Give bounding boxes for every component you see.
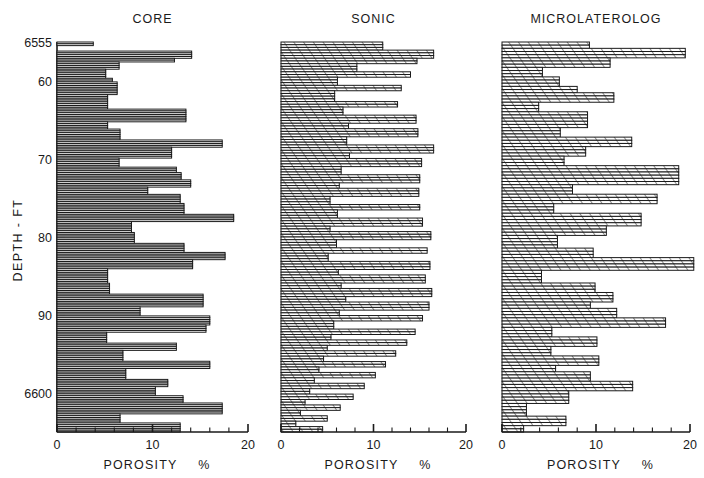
chart-svg: 6555607080906600 DEPTH - FT CORE01020POR… bbox=[0, 0, 704, 478]
porosity-tick-label: 10 bbox=[146, 438, 160, 452]
porosity-bar bbox=[57, 44, 93, 46]
panel-title: CORE bbox=[132, 12, 172, 26]
porosity-tick-label: 0 bbox=[54, 438, 61, 452]
bar-group bbox=[502, 42, 694, 432]
y-axis-label: DEPTH - FT bbox=[11, 199, 25, 282]
panel-core: CORE01020POROSITY% bbox=[54, 12, 255, 472]
depth-tick-label: 6600 bbox=[24, 387, 52, 401]
porosity-tick-label: 20 bbox=[241, 438, 255, 452]
bar-group bbox=[57, 42, 234, 432]
x-axis-unit: % bbox=[198, 458, 210, 472]
porosity-tick-label: 20 bbox=[459, 438, 473, 452]
panel-microlaterolog: MICROLATEROLOG01020POROSITY% bbox=[499, 12, 697, 472]
porosity-depth-figure: 6555607080906600 DEPTH - FT CORE01020POR… bbox=[0, 0, 704, 478]
depth-tick-label: 80 bbox=[38, 231, 52, 245]
panel-title: SONIC bbox=[351, 12, 396, 26]
depth-tick-label: 60 bbox=[38, 75, 52, 89]
porosity-tick-label: 10 bbox=[367, 438, 381, 452]
bar-group bbox=[281, 42, 434, 432]
porosity-tick-label: 20 bbox=[683, 438, 697, 452]
x-axis-label: POROSITY bbox=[324, 458, 398, 472]
panel-sonic: SONIC01020POROSITY% bbox=[278, 12, 473, 472]
depth-tick-label: 90 bbox=[38, 309, 52, 323]
x-axis-label: POROSITY bbox=[103, 458, 177, 472]
depth-tick-label: 6555 bbox=[24, 36, 52, 50]
panel-group: CORE01020POROSITY%SONIC01020POROSITY%MIC… bbox=[54, 12, 697, 472]
x-axis-unit: % bbox=[419, 458, 431, 472]
porosity-tick-label: 0 bbox=[499, 438, 506, 452]
x-axis-unit: % bbox=[642, 458, 654, 472]
depth-tick-label: 70 bbox=[38, 153, 52, 167]
x-axis-label: POROSITY bbox=[547, 458, 621, 472]
porosity-tick-label: 0 bbox=[278, 438, 285, 452]
porosity-tick-label: 10 bbox=[589, 438, 603, 452]
panel-title: MICROLATEROLOG bbox=[530, 12, 661, 26]
